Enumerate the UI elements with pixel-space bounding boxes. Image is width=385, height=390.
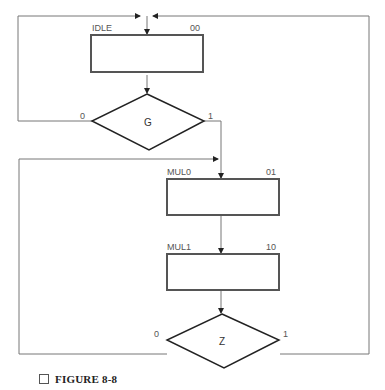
state-idle-code: 00 (190, 23, 200, 33)
asm-chart: IDLE 00 MUL0 01 MUL1 10 G 0 1 Z 0 1 (0, 0, 385, 390)
state-mul1-code: 10 (266, 242, 276, 252)
figure-caption: FIGURE 8-8 (39, 373, 117, 385)
state-mul1: MUL1 10 (167, 242, 279, 290)
decision-g-true-label: 1 (208, 111, 213, 121)
decision-z-true-label: 1 (283, 329, 288, 339)
caption-text: FIGURE 8-8 (55, 373, 117, 385)
state-mul0-code: 01 (266, 167, 276, 177)
state-mul0-name: MUL0 (167, 167, 191, 177)
state-mul1-name: MUL1 (167, 242, 191, 252)
decision-g: G 0 1 (80, 94, 213, 150)
decision-z-false-label: 0 (154, 329, 159, 339)
state-mul0: MUL0 01 (167, 167, 279, 215)
decision-g-false-label: 0 (80, 111, 85, 121)
decision-z-condition: Z (219, 336, 225, 347)
caption-box-icon (39, 374, 49, 384)
state-idle-name: IDLE (92, 23, 112, 33)
decision-g-condition: G (144, 117, 152, 128)
decision-z: Z 0 1 (154, 314, 288, 368)
